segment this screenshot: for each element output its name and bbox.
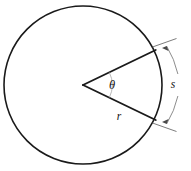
arc-length-s-label: s xyxy=(171,78,176,90)
dimension-arc-upper xyxy=(167,46,178,74)
upper-radius-line xyxy=(83,50,156,85)
circle-arc-diagram: θ r s xyxy=(0,0,191,171)
central-angle-theta-label: θ xyxy=(109,78,115,92)
radius-r-label: r xyxy=(117,110,122,122)
figure-canvas: θ r s xyxy=(0,0,191,171)
dimension-arc-lower xyxy=(167,96,178,124)
upper-extension-tick xyxy=(153,39,177,48)
lower-extension-tick xyxy=(153,123,177,132)
